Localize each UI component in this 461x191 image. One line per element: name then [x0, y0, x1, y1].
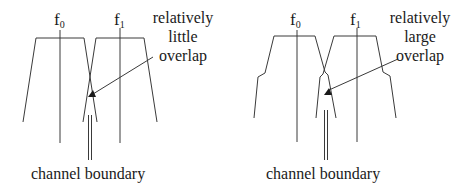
annotation-line: large — [385, 27, 455, 46]
annotation-line: overlap — [148, 46, 218, 65]
label-subscript: 0 — [60, 19, 65, 30]
annotation-line: relatively — [148, 8, 218, 27]
left-f0-label: f0 — [54, 11, 65, 33]
label-subscript: 0 — [296, 19, 301, 30]
right-f0-spectrum — [254, 30, 336, 142]
left-caption: channel boundary — [31, 166, 145, 182]
left-channel-boundary — [89, 115, 92, 160]
label-subscript: 1 — [356, 19, 361, 30]
channel-overlap-diagram: f0 f1 relatively little overlap channel … — [0, 0, 461, 191]
right-caption: channel boundary — [266, 166, 380, 182]
annotation-line: little — [148, 27, 218, 46]
label-subscript: 1 — [120, 19, 125, 30]
right-f0-label: f0 — [290, 11, 301, 33]
left-f0-spectrum — [23, 30, 97, 143]
left-f1-label: f1 — [114, 11, 125, 33]
right-annotation: relatively large overlap — [385, 8, 455, 65]
left-annotation-pointer — [93, 57, 153, 94]
left-annotation: relatively little overlap — [148, 8, 218, 65]
left-f1-spectrum — [83, 28, 157, 143]
right-channel-boundary — [325, 110, 328, 160]
annotation-line: relatively — [385, 8, 455, 27]
right-f1-label: f1 — [350, 11, 361, 33]
annotation-line: overlap — [385, 46, 455, 65]
